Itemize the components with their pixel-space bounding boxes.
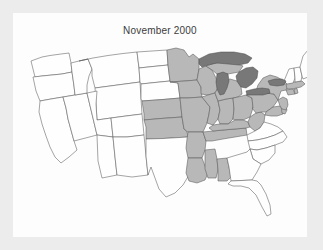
choropleth-map — [13, 39, 307, 229]
state-louisiana[interactable] — [186, 158, 208, 183]
state-kansas[interactable] — [142, 98, 182, 120]
state-south-dakota[interactable] — [139, 65, 170, 84]
state-minnesota[interactable] — [167, 48, 199, 82]
state-wyoming[interactable] — [95, 82, 142, 120]
us-map-svg — [13, 39, 307, 229]
state-oklahoma[interactable] — [144, 117, 188, 139]
state-new-mexico[interactable] — [113, 135, 148, 177]
state-florida[interactable] — [228, 180, 271, 216]
state-colorado[interactable] — [111, 114, 144, 137]
states-layer — [31, 48, 307, 216]
state-nebraska[interactable] — [141, 81, 180, 101]
state-mississippi[interactable] — [205, 149, 218, 178]
lake-erie[interactable] — [246, 88, 270, 95]
state-ohio[interactable] — [233, 95, 253, 120]
lake-ontario[interactable] — [268, 79, 286, 86]
state-rhode-island[interactable] — [294, 89, 298, 95]
state-connecticut[interactable] — [286, 89, 295, 95]
map-title: November 2000 — [13, 25, 307, 36]
state-missouri[interactable] — [180, 97, 210, 132]
figure-panel: November 2000 — [13, 13, 307, 237]
state-indiana[interactable] — [218, 98, 234, 124]
state-idaho[interactable] — [71, 59, 92, 95]
state-arkansas[interactable] — [186, 132, 206, 158]
figure-root: November 2000 — [0, 0, 323, 250]
